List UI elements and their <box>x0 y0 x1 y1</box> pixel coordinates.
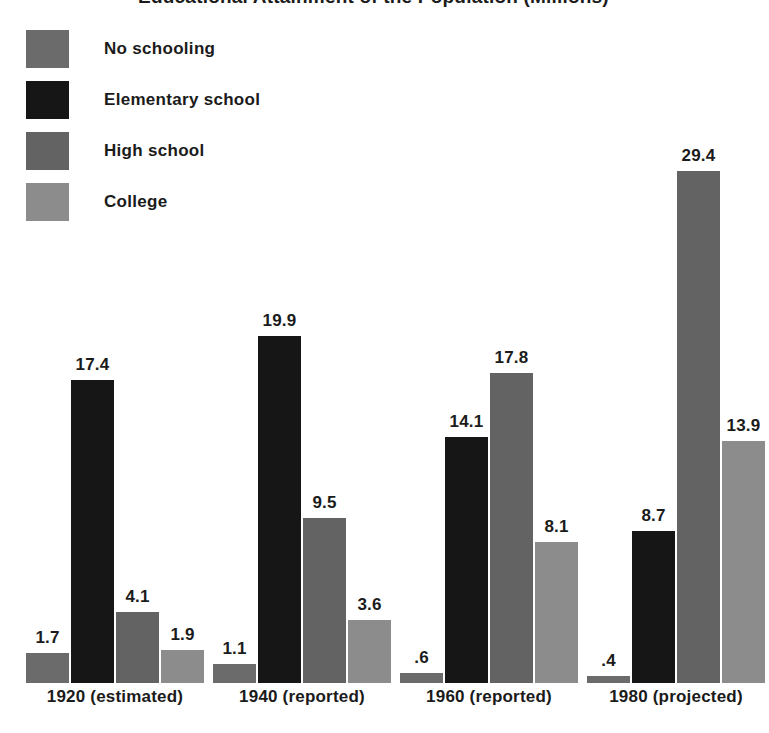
bar <box>535 542 578 683</box>
bar <box>116 612 159 683</box>
bar-value-label: 8.1 <box>527 517 586 537</box>
bar-value-label: 9.5 <box>295 493 354 513</box>
bar-value-label: 17.4 <box>63 355 122 375</box>
category-label: 1960 (reported) <box>388 687 590 707</box>
bar <box>632 531 675 683</box>
bar <box>348 620 391 683</box>
bar <box>400 673 443 683</box>
bar <box>587 676 630 683</box>
bar <box>722 441 765 683</box>
bar-value-label: 14.1 <box>437 412 496 432</box>
bar-value-label: 1.1 <box>205 639 264 659</box>
bar-value-label: .6 <box>392 648 451 668</box>
bar <box>161 650 204 683</box>
bar-value-label: 19.9 <box>250 311 309 331</box>
category-label: 1920 (estimated) <box>14 687 216 707</box>
category-label: 1940 (reported) <box>201 687 403 707</box>
bar-value-label: 1.7 <box>18 628 77 648</box>
bar-value-label: 1.9 <box>153 625 212 645</box>
bar-value-label: 3.6 <box>340 595 399 615</box>
bar-value-label: 8.7 <box>624 506 683 526</box>
bar-value-label: 17.8 <box>482 348 541 368</box>
bar <box>71 380 114 683</box>
bar-value-label: 4.1 <box>108 587 167 607</box>
bar <box>445 437 488 683</box>
category-label: 1980 (projected) <box>575 687 769 707</box>
bar <box>213 664 256 683</box>
bar-value-label: 13.9 <box>714 416 769 436</box>
bar-value-label: .4 <box>579 651 638 671</box>
category-axis: 1920 (estimated)1940 (reported)1960 (rep… <box>0 687 747 713</box>
bar <box>26 653 69 683</box>
bar-value-label: 29.4 <box>669 146 728 166</box>
